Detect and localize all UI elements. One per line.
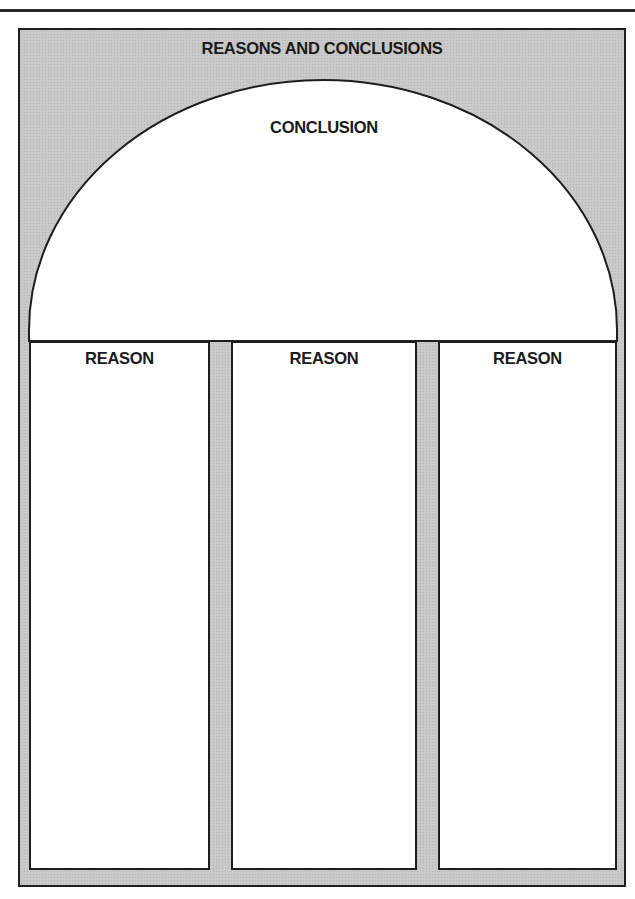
reason-box-1[interactable]: REASON [29, 341, 210, 870]
reason-box-3[interactable]: REASON [438, 341, 617, 870]
conclusion-arch [20, 30, 624, 350]
reason-label: REASON [440, 349, 615, 368]
reason-label: REASON [233, 349, 415, 368]
top-rule-divider [0, 9, 635, 12]
reasons-conclusions-organizer: REASONS AND CONCLUSIONS CONCLUSION REASO… [18, 28, 626, 887]
reason-label: REASON [31, 349, 208, 368]
conclusion-label: CONCLUSION [20, 118, 628, 137]
reason-box-2[interactable]: REASON [231, 341, 417, 870]
